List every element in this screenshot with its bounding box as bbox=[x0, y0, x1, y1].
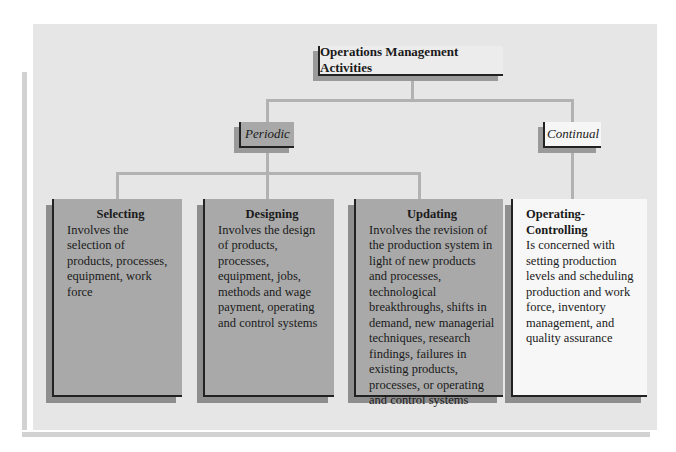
connector-to-selecting bbox=[116, 172, 119, 200]
connector-title-down bbox=[411, 76, 414, 101]
activity-description: Is concerned with setting production lev… bbox=[526, 238, 634, 345]
diagram-title: Operations Management Activities bbox=[318, 46, 503, 76]
activity-title: Updating bbox=[369, 207, 495, 223]
activity-description: Involves the selection of products, proc… bbox=[67, 223, 167, 299]
activity-card-designing: Designing Involves the design of product… bbox=[203, 199, 334, 397]
activity-card-operating-controlling: Operating-Controlling Is concerned with … bbox=[511, 199, 647, 397]
category-periodic-label: Periodic bbox=[245, 126, 290, 142]
connector-to-continual bbox=[571, 99, 574, 123]
activity-description: Involves the design of products, process… bbox=[218, 223, 317, 330]
connector-to-periodic bbox=[266, 99, 269, 123]
activity-card-selecting: Selecting Involves the selection of prod… bbox=[52, 199, 182, 397]
activity-title: Operating-Controlling bbox=[526, 207, 639, 238]
category-periodic: Periodic bbox=[239, 122, 294, 148]
diagram-title-text: Operations Management Activities bbox=[320, 44, 503, 76]
connector-top-horizontal bbox=[266, 99, 574, 102]
activity-title: Selecting bbox=[67, 207, 174, 223]
category-continual-label: Continual bbox=[547, 126, 599, 142]
activity-card-updating: Updating Involves the revision of the pr… bbox=[354, 199, 503, 397]
outer-frame-bottom bbox=[22, 432, 650, 437]
category-continual: Continual bbox=[543, 122, 601, 148]
outer-frame-left bbox=[22, 72, 27, 430]
connector-to-updating bbox=[418, 172, 421, 200]
connector-continual-down bbox=[571, 148, 574, 200]
activity-description: Involves the revision of the production … bbox=[369, 223, 494, 408]
connector-periodic-horizontal bbox=[116, 172, 421, 175]
activity-title: Designing bbox=[218, 207, 326, 223]
